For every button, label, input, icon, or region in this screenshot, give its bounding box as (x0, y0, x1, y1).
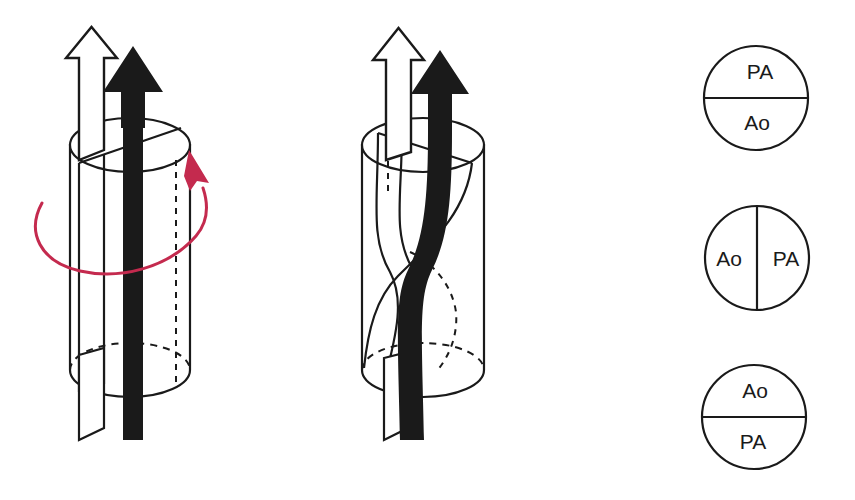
diagram-canvas: PA Ao Ao PA Ao PA (0, 0, 855, 500)
cross-section-middle: Ao PA (705, 206, 809, 310)
cross-section-label-top-upper: PA (747, 60, 773, 83)
cross-section-label-middle-right: PA (773, 247, 799, 270)
cross-section-label-bottom-upper: Ao (742, 379, 768, 402)
cross-sections-panel: PA Ao Ao PA Ao PA (702, 46, 809, 469)
white-arrow-tail-left (79, 348, 104, 440)
cross-section-label-bottom-lower: PA (740, 430, 766, 453)
cross-section-label-top-lower: Ao (744, 111, 770, 134)
cross-section-label-middle-left: Ao (716, 247, 742, 270)
cylinder-top-ellipse-middle (362, 118, 484, 172)
cross-section-bottom: Ao PA (702, 365, 806, 469)
black-arrow-shaft-left (123, 120, 143, 440)
cross-section-top: PA Ao (704, 46, 808, 150)
